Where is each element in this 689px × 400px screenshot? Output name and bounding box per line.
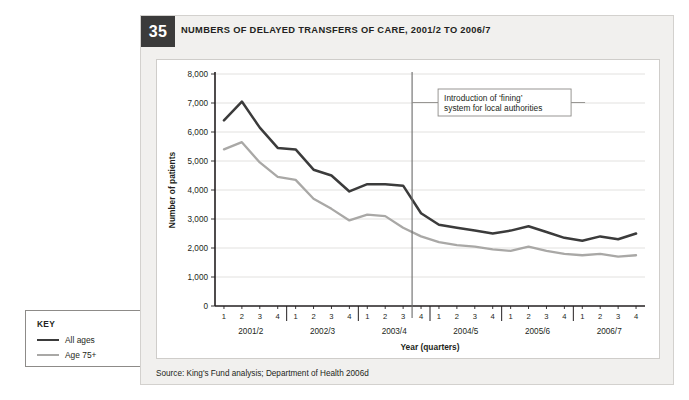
y-tick-label: 3,000 bbox=[188, 215, 209, 224]
y-tick-label: 5,000 bbox=[188, 157, 209, 166]
x-tick-label: 4 bbox=[276, 312, 280, 321]
x-tick-label: 3 bbox=[401, 312, 405, 321]
x-tick-label: 2 bbox=[526, 312, 530, 321]
x-tick-label: 2 bbox=[383, 312, 387, 321]
key-swatch-age-75-plus bbox=[37, 354, 59, 357]
x-group-label: 2001/2 bbox=[238, 327, 263, 336]
x-group-label: 2006/7 bbox=[597, 327, 622, 336]
x-tick-label: 3 bbox=[616, 312, 620, 321]
y-tick-label: 7,000 bbox=[188, 99, 209, 108]
key-label-age-75-plus: Age 75+ bbox=[65, 350, 96, 360]
x-tick-label: 1 bbox=[580, 312, 584, 321]
y-tick-label: 8,000 bbox=[188, 70, 209, 79]
x-tick-label: 4 bbox=[634, 312, 638, 321]
annotation-callout-line1: Introduction of ‘fining’ bbox=[444, 93, 523, 103]
figure-header: 35 NUMBERS OF DELAYED TRANSFERS OF CARE,… bbox=[141, 16, 673, 57]
x-tick-label: 2 bbox=[240, 312, 244, 321]
x-tick-label: 2 bbox=[598, 312, 602, 321]
key-label-all-ages: All ages bbox=[65, 335, 95, 345]
x-tick-label: 4 bbox=[419, 312, 423, 321]
x-tick-label: 1 bbox=[365, 312, 369, 321]
x-axis-title: Year (quarters) bbox=[400, 342, 459, 352]
x-tick-label: 4 bbox=[347, 312, 351, 321]
x-tick-label: 2 bbox=[455, 312, 459, 321]
key-legend-box: KEY All ages Age 75+ bbox=[25, 310, 143, 367]
x-group-label: 2002/3 bbox=[310, 327, 335, 336]
x-tick-label: 4 bbox=[562, 312, 566, 321]
x-tick-label: 3 bbox=[473, 312, 477, 321]
figure-panel: 35 NUMBERS OF DELAYED TRANSFERS OF CARE,… bbox=[140, 15, 674, 385]
key-entry-age-75-plus: Age 75+ bbox=[37, 350, 96, 360]
y-axis-title: Number of patients bbox=[167, 152, 177, 229]
y-tick-label: 6,000 bbox=[188, 128, 209, 137]
y-tick-label: 4,000 bbox=[188, 186, 209, 195]
x-tick-label: 4 bbox=[491, 312, 495, 321]
line-chart: 01,0002,0003,0004,0005,0006,0007,0008,00… bbox=[157, 60, 659, 358]
y-tick-label: 0 bbox=[203, 302, 208, 311]
axis-titles: Year (quarters)Number of patients bbox=[167, 152, 460, 352]
source-note: Source: King's Fund analysis; Department… bbox=[156, 364, 660, 382]
figure-number-badge: 35 bbox=[141, 16, 175, 47]
x-group-label: 2004/5 bbox=[453, 327, 478, 336]
x-tick-label: 3 bbox=[258, 312, 262, 321]
x-group-label: 2003/4 bbox=[382, 327, 407, 336]
x-tick-label: 1 bbox=[294, 312, 298, 321]
plot-area-card: 01,0002,0003,0004,0005,0006,0007,0008,00… bbox=[156, 59, 660, 359]
x-tick-label: 1 bbox=[222, 312, 226, 321]
series-line-all-ages bbox=[224, 102, 636, 241]
key-title: KEY bbox=[37, 319, 55, 329]
x-tick-label: 3 bbox=[329, 312, 333, 321]
y-tick-label: 1,000 bbox=[188, 273, 209, 282]
x-tick-label: 2 bbox=[311, 312, 315, 321]
annotation-callout: Introduction of ‘fining’system for local… bbox=[412, 89, 585, 116]
axis-lines bbox=[215, 72, 645, 306]
x-tick-label: 3 bbox=[544, 312, 548, 321]
x-tick-label: 1 bbox=[509, 312, 513, 321]
y-axis-tick-labels: 01,0002,0003,0004,0005,0006,0007,0008,00… bbox=[188, 70, 209, 311]
x-axis-ticks bbox=[224, 306, 636, 321]
figure-title: NUMBERS OF DELAYED TRANSFERS OF CARE, 20… bbox=[181, 25, 491, 35]
annotation-callout-line2: system for local authorities bbox=[444, 103, 542, 113]
data-series bbox=[224, 102, 636, 257]
x-tick-label: 1 bbox=[437, 312, 441, 321]
grid-lines bbox=[215, 74, 645, 277]
x-group-label: 2005/6 bbox=[525, 327, 550, 336]
x-axis-group-labels: 2001/22002/32003/42004/52005/62006/7 bbox=[238, 327, 622, 336]
key-swatch-all-ages bbox=[37, 339, 59, 342]
key-entry-all-ages: All ages bbox=[37, 335, 95, 345]
y-tick-label: 2,000 bbox=[188, 244, 209, 253]
